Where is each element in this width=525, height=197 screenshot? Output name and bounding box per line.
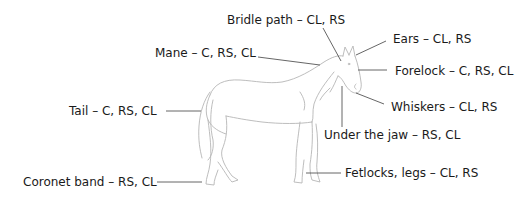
horse-grooming-diagram: Bridle path – CL, RS Ears – CL, RS Mane … [0, 0, 525, 197]
leader-line-bridle-path [323, 28, 341, 61]
label-tail: Tail – C, RS, CL [69, 104, 157, 118]
label-forelock: Forelock – C, RS, CL [395, 64, 513, 78]
leader-line-ears [356, 41, 386, 55]
label-ears: Ears – CL, RS [393, 32, 471, 46]
label-coronet-band: Coronet band – RS, CL [23, 175, 157, 189]
label-whiskers: Whiskers – CL, RS [391, 100, 497, 114]
leader-line-mane [258, 57, 320, 65]
horse-outline [199, 46, 362, 185]
label-bridle-path: Bridle path – CL, RS [227, 13, 345, 27]
label-mane: Mane – C, RS, CL [155, 46, 256, 60]
label-fetlocks-legs: Fetlocks, legs – CL, RS [345, 166, 478, 180]
label-under-the-jaw: Under the jaw – RS, CL [324, 128, 460, 142]
leader-line-whiskers [356, 93, 384, 104]
